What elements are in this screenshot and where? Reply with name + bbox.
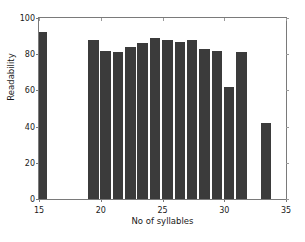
y-tick-label: 0 xyxy=(30,195,35,204)
bar xyxy=(175,42,185,199)
y-tick-label: 40 xyxy=(25,122,35,131)
chart-figure: Readability 1520253035020406080100 No of… xyxy=(0,0,305,242)
plot-area xyxy=(39,18,286,199)
x-tick xyxy=(163,199,164,202)
y-tick xyxy=(36,54,39,55)
y-tick-right xyxy=(286,127,289,128)
bar xyxy=(39,32,47,199)
x-tick-top xyxy=(224,18,225,21)
x-tick-label: 15 xyxy=(34,206,44,216)
bar xyxy=(212,51,222,199)
bar xyxy=(162,40,172,199)
y-tick-label: 80 xyxy=(25,50,35,59)
y-tick-label: 100 xyxy=(20,14,35,23)
x-tick xyxy=(101,199,102,202)
bar xyxy=(113,52,123,199)
y-tick-right xyxy=(286,90,289,91)
bar xyxy=(125,47,135,199)
x-tick xyxy=(39,199,40,202)
x-tick-top xyxy=(101,18,102,21)
bar xyxy=(150,38,160,199)
y-tick-label: 60 xyxy=(25,86,35,95)
bar xyxy=(100,51,110,199)
y-tick-right xyxy=(286,199,289,200)
y-tick-label: 20 xyxy=(25,158,35,167)
bar xyxy=(187,40,197,199)
y-tick xyxy=(36,127,39,128)
y-tick xyxy=(36,199,39,200)
x-tick xyxy=(224,199,225,202)
y-tick-right xyxy=(286,54,289,55)
plot-axes: 1520253035020406080100 xyxy=(38,17,287,200)
bar xyxy=(137,43,147,199)
y-tick-right xyxy=(286,163,289,164)
x-axis-label: No of syllables xyxy=(38,216,287,226)
bar xyxy=(236,52,246,200)
bar xyxy=(261,123,271,199)
bar xyxy=(199,49,209,199)
y-tick xyxy=(36,18,39,19)
y-axis-label: Readability xyxy=(6,37,16,117)
y-tick xyxy=(36,90,39,91)
bar xyxy=(88,40,98,199)
y-tick-right xyxy=(286,18,289,19)
x-tick-label: 30 xyxy=(219,206,229,216)
x-tick-top xyxy=(39,18,40,21)
y-tick xyxy=(36,163,39,164)
x-tick-top xyxy=(163,18,164,21)
bar xyxy=(224,87,234,199)
x-tick-label: 35 xyxy=(281,206,291,216)
x-tick-label: 25 xyxy=(157,206,167,216)
x-tick-label: 20 xyxy=(96,206,106,216)
